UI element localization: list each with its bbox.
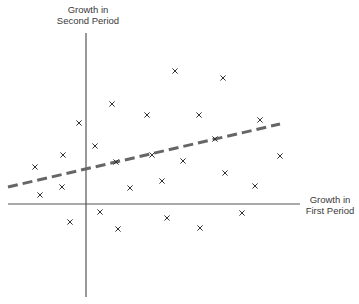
- x-marker-icon: [149, 152, 154, 157]
- x-axis-label-line-1: Growth in: [300, 194, 359, 205]
- x-marker-icon: [67, 219, 72, 224]
- x-marker-icon: [197, 225, 202, 230]
- x-marker-icon: [127, 185, 132, 190]
- x-marker-icon: [239, 210, 244, 215]
- x-marker-icon: [59, 184, 64, 189]
- x-marker-icon: [180, 158, 185, 163]
- x-marker-icon: [115, 226, 120, 231]
- x-marker-icon: [144, 112, 149, 117]
- x-marker-icon: [32, 164, 37, 169]
- x-marker-icon: [257, 117, 262, 122]
- x-marker-icon: [277, 153, 282, 158]
- x-marker-icon: [37, 192, 42, 197]
- data-points: [32, 68, 282, 231]
- x-axis-label-line-2: First Period: [300, 205, 359, 216]
- trend-line: [8, 124, 280, 187]
- x-marker-icon: [60, 152, 65, 157]
- scatter-plot: [0, 0, 359, 304]
- x-marker-icon: [196, 112, 201, 117]
- y-axis-label-line-1: Growth in: [40, 4, 136, 15]
- x-marker-icon: [92, 143, 97, 148]
- y-axis-label-line-2: Second Period: [40, 15, 136, 26]
- x-marker-icon: [109, 101, 114, 106]
- x-marker-icon: [222, 170, 227, 175]
- y-axis-label: Growth in Second Period: [40, 4, 136, 26]
- x-axis-label: Growth in First Period: [300, 194, 359, 216]
- x-marker-icon: [252, 183, 257, 188]
- x-marker-icon: [164, 215, 169, 220]
- x-marker-icon: [76, 120, 81, 125]
- x-marker-icon: [97, 209, 102, 214]
- x-marker-icon: [159, 178, 164, 183]
- x-marker-icon: [220, 75, 225, 80]
- x-marker-icon: [172, 68, 177, 73]
